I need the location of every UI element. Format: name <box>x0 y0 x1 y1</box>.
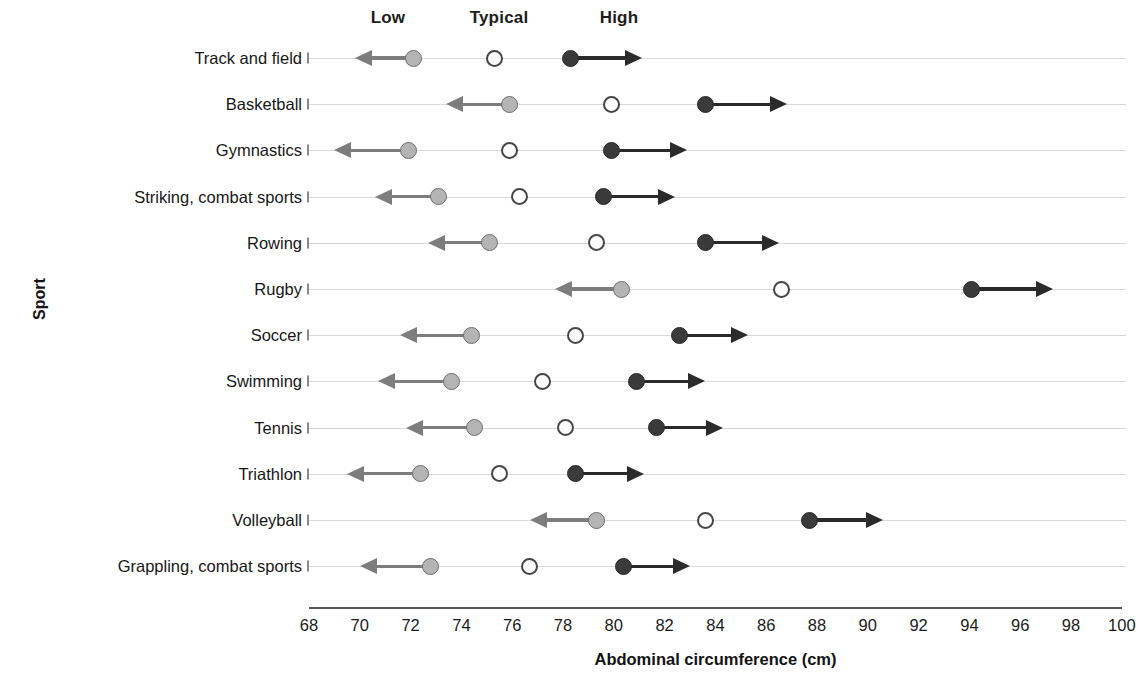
low-marker[interactable] <box>481 234 498 251</box>
typical-marker[interactable] <box>567 327 584 344</box>
high-marker[interactable] <box>567 465 584 482</box>
chart-row: Soccer <box>0 312 1138 358</box>
high-marker[interactable] <box>801 512 818 529</box>
column-header-high: High <box>600 8 639 28</box>
typical-marker[interactable] <box>486 50 503 67</box>
y-axis-tick <box>307 422 309 433</box>
low-marker[interactable] <box>588 512 605 529</box>
high-arrow-head <box>658 189 675 205</box>
row-label-rugby: Rugby <box>254 280 302 299</box>
high-marker[interactable] <box>595 188 612 205</box>
low-marker[interactable] <box>501 96 518 113</box>
high-marker[interactable] <box>648 419 665 436</box>
typical-marker[interactable] <box>511 188 528 205</box>
row-label-swimming: Swimming <box>226 372 302 391</box>
high-arrow-shaft <box>604 195 661 198</box>
high-arrow-head <box>627 466 644 482</box>
chart-row: Rugby <box>0 266 1138 312</box>
row-gridline <box>309 474 1126 475</box>
row-gridline <box>309 58 1126 59</box>
x-tick-96: 96 <box>1011 616 1029 635</box>
chart-row: Triathlon <box>0 451 1138 497</box>
high-marker[interactable] <box>615 558 632 575</box>
row-label-basketball: Basketball <box>226 95 302 114</box>
y-axis-tick <box>307 237 309 248</box>
high-arrow-shaft <box>611 149 673 152</box>
y-axis-tick <box>307 376 309 387</box>
chart-row: Gymnastics <box>0 127 1138 173</box>
high-arrow-head <box>625 50 642 66</box>
chart-row: Volleyball <box>0 497 1138 543</box>
y-axis-tick <box>307 561 309 572</box>
high-marker[interactable] <box>697 96 714 113</box>
high-arrow-shaft <box>571 56 628 59</box>
x-tick-84: 84 <box>706 616 724 635</box>
chart-row: Track and field <box>0 35 1138 81</box>
row-label-track-and-field: Track and field <box>194 49 302 68</box>
low-marker[interactable] <box>400 142 417 159</box>
high-arrow-head <box>1036 281 1053 297</box>
high-marker[interactable] <box>562 50 579 67</box>
y-axis-tick <box>307 468 309 479</box>
low-marker[interactable] <box>463 327 480 344</box>
high-marker[interactable] <box>697 234 714 251</box>
low-marker[interactable] <box>443 373 460 390</box>
chart-row: Grappling, combat sports <box>0 543 1138 589</box>
low-marker[interactable] <box>466 419 483 436</box>
high-arrow-shaft <box>972 287 1039 290</box>
x-tick-90: 90 <box>859 616 877 635</box>
high-marker[interactable] <box>628 373 645 390</box>
x-tick-72: 72 <box>401 616 419 635</box>
low-marker[interactable] <box>613 281 630 298</box>
row-label-striking-combat-sports: Striking, combat sports <box>134 187 302 206</box>
typical-marker[interactable] <box>697 512 714 529</box>
high-arrow-head <box>762 235 779 251</box>
row-gridline <box>309 520 1126 521</box>
high-marker[interactable] <box>603 142 620 159</box>
low-marker[interactable] <box>405 50 422 67</box>
typical-marker[interactable] <box>534 373 551 390</box>
high-marker[interactable] <box>671 327 688 344</box>
typical-marker[interactable] <box>773 281 790 298</box>
high-arrow-head <box>688 373 705 389</box>
typical-marker[interactable] <box>491 465 508 482</box>
x-tick-100: 100 <box>1108 616 1136 635</box>
y-axis-tick <box>307 53 309 64</box>
high-marker[interactable] <box>963 281 980 298</box>
low-marker[interactable] <box>430 188 447 205</box>
typical-marker[interactable] <box>521 558 538 575</box>
row-label-volleyball: Volleyball <box>232 511 302 530</box>
typical-marker[interactable] <box>557 419 574 436</box>
row-label-rowing: Rowing <box>247 233 302 252</box>
x-tick-80: 80 <box>605 616 623 635</box>
high-arrow-head <box>670 142 687 158</box>
row-label-triathlon: Triathlon <box>238 464 302 483</box>
chart-row: Rowing <box>0 220 1138 266</box>
high-arrow-head <box>673 558 690 574</box>
x-axis-line <box>309 607 1122 609</box>
x-tick-94: 94 <box>960 616 978 635</box>
x-tick-70: 70 <box>351 616 369 635</box>
y-axis-tick <box>307 284 309 295</box>
y-axis-tick <box>307 515 309 526</box>
column-header-typical: Typical <box>470 8 529 28</box>
typical-marker[interactable] <box>501 142 518 159</box>
row-gridline <box>309 150 1126 151</box>
row-label-gymnastics: Gymnastics <box>216 141 302 160</box>
chart-row: Tennis <box>0 405 1138 451</box>
chart-row: Swimming <box>0 358 1138 404</box>
high-arrow-head <box>770 96 787 112</box>
high-arrow-head <box>731 327 748 343</box>
low-marker[interactable] <box>412 465 429 482</box>
row-label-soccer: Soccer <box>251 326 302 345</box>
high-arrow-shaft <box>705 241 765 244</box>
typical-marker[interactable] <box>588 234 605 251</box>
x-tick-86: 86 <box>757 616 775 635</box>
low-marker[interactable] <box>422 558 439 575</box>
high-arrow-head <box>706 420 723 436</box>
y-axis-tick <box>307 191 309 202</box>
x-tick-88: 88 <box>808 616 826 635</box>
row-label-grappling-combat-sports: Grappling, combat sports <box>118 557 302 576</box>
typical-marker[interactable] <box>603 96 620 113</box>
row-label-tennis: Tennis <box>254 418 302 437</box>
